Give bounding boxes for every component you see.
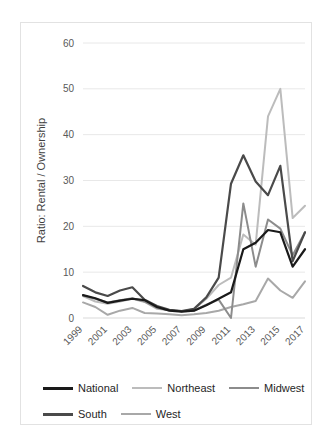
legend-swatch-national (43, 387, 73, 390)
chart-figure: 0102030405060Ratio: Rental / Ownership19… (20, 22, 312, 425)
legend-swatch-south (43, 413, 73, 416)
series-line-south (83, 155, 305, 311)
y-axis-tick-label: 10 (63, 267, 75, 278)
x-axis-tick-label: 2017 (283, 323, 307, 347)
legend-row: SouthWest (43, 401, 311, 427)
x-axis-tick-label: 1999 (61, 323, 85, 347)
legend-item-northeast[interactable]: Northeast (132, 382, 215, 394)
legend-swatch-midwest (229, 387, 259, 389)
y-axis-title: Ratio: Rental / Ownership (35, 118, 47, 243)
legend-row: NationalNortheastMidwest (43, 375, 311, 401)
y-axis-tick-label: 30 (63, 175, 75, 186)
legend-item-west[interactable]: West (121, 408, 181, 420)
legend-label: National (78, 382, 118, 394)
y-axis-tick-label: 60 (63, 38, 75, 49)
series-line-national (83, 230, 305, 312)
x-axis-tick-label: 2009 (184, 323, 208, 347)
x-axis-tick-label: 2011 (209, 323, 232, 346)
legend-label: West (156, 408, 181, 420)
x-axis-tick-label: 2003 (110, 323, 134, 347)
x-axis-tick-label: 2013 (234, 323, 258, 347)
x-axis-tick-label: 2015 (258, 323, 282, 347)
y-axis-tick-label: 50 (63, 83, 75, 94)
x-axis-tick-label: 2005 (135, 323, 159, 347)
legend-label: Northeast (167, 382, 215, 394)
x-axis-tick-label: 2001 (86, 323, 110, 347)
y-axis-tick-label: 20 (63, 221, 75, 232)
legend-label: Midwest (264, 382, 304, 394)
line-chart-plot: 0102030405060Ratio: Rental / Ownership19… (21, 23, 311, 424)
legend-item-south[interactable]: South (43, 408, 107, 420)
y-axis-tick-label: 40 (63, 129, 75, 140)
series-line-northeast (83, 89, 305, 311)
legend-swatch-west (121, 413, 151, 415)
chart-legend: NationalNortheastMidwestSouthWest (43, 375, 311, 427)
legend-label: South (78, 408, 107, 420)
y-axis-tick-label: 0 (68, 313, 74, 324)
legend-item-midwest[interactable]: Midwest (229, 382, 304, 394)
legend-swatch-northeast (132, 387, 162, 389)
legend-item-national[interactable]: National (43, 382, 118, 394)
x-axis-tick-label: 2007 (160, 323, 184, 347)
